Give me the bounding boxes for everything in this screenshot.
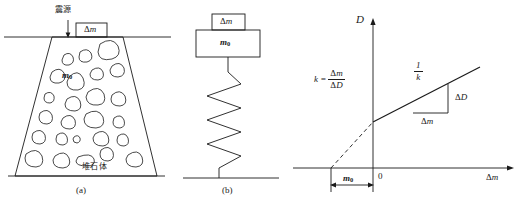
run-leg-label: Δm [421,117,433,126]
rock-shape [93,131,109,146]
rock-shape [113,116,125,128]
rock-shape [98,40,119,59]
stiffness-chart-svg [290,0,519,205]
m0-rockfill-label: m0 [62,71,72,81]
delta-m-block-label: Δm [220,17,232,26]
rock-shape [86,88,105,105]
rock-cluster [25,40,143,168]
x-axis-label: Δm [486,173,498,182]
rock-shape [100,147,113,161]
rock-shape [53,153,70,168]
formula-lhs: k = [314,75,326,84]
rise-leg-label: ΔD [455,93,467,102]
rock-shape [126,152,143,167]
extrapolation-dashed-line [331,122,373,168]
slope-label-one-over-k: 1 k [414,61,423,82]
delta-m-block-label: Δm [84,25,96,34]
rock-shape [25,150,43,167]
rock-shape [65,96,81,111]
rockfill-body-label: 堆石体 [82,163,107,171]
rock-shape [39,110,52,124]
rock-shape [111,92,126,106]
rock-shape [44,92,54,103]
rock-shape [61,115,75,129]
rock-shape [84,111,104,128]
formula-numerator: Δm [328,69,344,78]
formula-denominator: ΔD [328,81,344,90]
seismic-source-label: 震源 [55,6,72,14]
origin-label: 0 [378,172,383,181]
rock-shape [62,53,74,65]
panel-b-caption: (b) [222,186,233,195]
spring-model-svg [175,0,290,205]
m0-block-label: m0 [220,38,230,48]
panel-b-spring-model: Δm m0 (b) [175,0,290,205]
rock-shape [110,63,124,77]
x-intercept-m0-label: m0 [343,174,353,184]
rock-shape [56,133,68,145]
spring-coil [207,72,241,168]
formula-fraction: Δm ΔD [328,69,344,90]
rock-shape [73,136,80,143]
panel-c-stiffness-chart: D Δm 0 m0 k = Δm ΔD 1 k ΔD Δm [290,0,519,205]
rock-shape [117,134,129,146]
rock-shape [32,130,45,144]
x-axis-arrowhead [507,165,514,170]
rock-shape [79,50,92,62]
figure-root: 震源 Δm m0 堆石体 (a) Δm m0 [0,0,519,205]
panel-a-rockfill-diagram: 震源 Δm m0 堆石体 (a) [0,0,175,205]
slope-denominator: k [414,73,423,82]
slope-numerator: 1 [414,61,423,70]
rock-shape [90,68,103,80]
y-axis-label: D [356,14,364,25]
stiffness-formula: k = Δm ΔD [314,69,345,90]
panel-a-caption: (a) [76,186,86,195]
y-axis-arrowhead [370,18,375,25]
